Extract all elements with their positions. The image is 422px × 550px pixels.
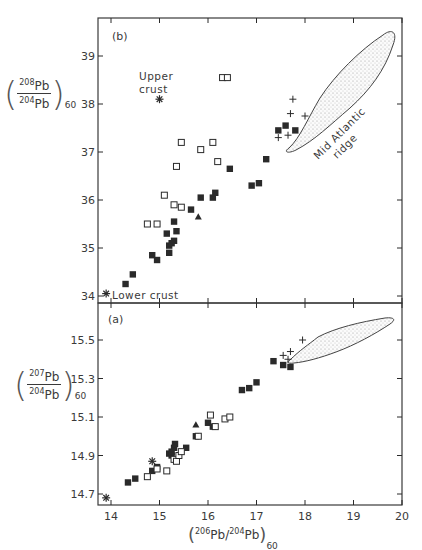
- filled-square-point: [164, 230, 170, 236]
- filled-square-point: [292, 127, 298, 133]
- filled-square-point: [122, 281, 128, 287]
- filled-square-point: [125, 479, 131, 485]
- open-square-point: [154, 221, 160, 227]
- filled-square-point: [287, 364, 293, 370]
- filled-square-point: [227, 166, 233, 172]
- filled-square-point: [280, 362, 286, 368]
- filled-square-point: [270, 358, 276, 364]
- y-tick-label: 34: [81, 290, 95, 303]
- filled-square-point: [282, 122, 288, 128]
- filled-square-point: [253, 379, 259, 385]
- filled-square-point: [173, 228, 179, 234]
- filled-square-point: [171, 238, 177, 244]
- mid-atlantic-ridge-field-a: [288, 318, 394, 363]
- open-square-point: [227, 414, 233, 420]
- upper-crust-label: Upper: [139, 70, 173, 82]
- filled-square-point: [212, 190, 218, 196]
- open-square-point: [198, 147, 204, 153]
- y-axis-label-a: (207Pb204Pb)60: [14, 367, 86, 402]
- x-tick-label: 20: [395, 510, 409, 523]
- lower-crust-label: Lower crust: [112, 289, 179, 301]
- y-tick-label: 14.9: [71, 450, 96, 463]
- filled-square-point: [246, 385, 252, 391]
- open-square-point: [144, 221, 150, 227]
- x-axis-label: (206Pb/204Pb)60: [188, 524, 278, 550]
- y-tick-label: 36: [81, 194, 95, 207]
- filled-square-point: [256, 180, 262, 186]
- open-square-point: [178, 449, 184, 455]
- open-square-point: [195, 433, 201, 439]
- filled-square-point: [132, 475, 138, 481]
- open-square-point: [161, 192, 167, 198]
- open-square-point: [173, 458, 179, 464]
- y-tick-label: 15.1: [71, 411, 96, 424]
- open-square-point: [171, 202, 177, 208]
- filled-square-point: [275, 127, 281, 133]
- x-tick-label: 17: [250, 510, 264, 523]
- y-tick-label: 38: [81, 98, 95, 111]
- filled-square-point: [188, 206, 194, 212]
- open-square-point: [210, 139, 216, 145]
- filled-square-point: [248, 182, 254, 188]
- filled-square-point: [130, 271, 136, 277]
- x-tick-label: 15: [153, 510, 167, 523]
- triangle-point: [192, 421, 199, 427]
- triangle-point: [195, 213, 202, 219]
- open-square-point: [212, 424, 218, 430]
- y-tick-label: 37: [81, 146, 95, 159]
- open-square-point: [173, 163, 179, 169]
- filled-square-point: [239, 387, 245, 393]
- y-axis-label-b: (208Pb204Pb)60: [4, 76, 76, 111]
- open-square-point: [178, 139, 184, 145]
- open-square-point: [224, 75, 230, 81]
- open-square-point: [207, 412, 213, 418]
- y-tick-label: 15.5: [71, 334, 96, 347]
- open-square-point: [164, 468, 170, 474]
- y-tick-label: 35: [81, 242, 95, 255]
- panel-a-label: (a): [108, 313, 123, 326]
- x-tick-label: 16: [201, 510, 215, 523]
- open-square-point: [154, 466, 160, 472]
- y-tick-label: 39: [81, 50, 95, 63]
- x-tick-label: 14: [104, 510, 118, 523]
- filled-square-point: [154, 257, 160, 263]
- upper-crust-label-2: crust: [139, 83, 168, 95]
- x-tick-label: 18: [298, 510, 312, 523]
- panel-b-plot: 343536373839: [81, 18, 402, 303]
- y-tick-label: 14.7: [71, 488, 96, 501]
- filled-square-point: [172, 441, 178, 447]
- open-square-point: [215, 159, 221, 165]
- panel-b-label: (b): [112, 30, 128, 43]
- filled-square-point: [171, 218, 177, 224]
- filled-square-point: [263, 156, 269, 162]
- x-tick-label: 19: [347, 510, 361, 523]
- open-square-point: [144, 474, 150, 480]
- filled-square-point: [166, 250, 172, 256]
- filled-square-point: [198, 194, 204, 200]
- panel-a-plot: 1415161718192014.714.915.115.315.5: [71, 303, 410, 523]
- open-square-point: [178, 204, 184, 210]
